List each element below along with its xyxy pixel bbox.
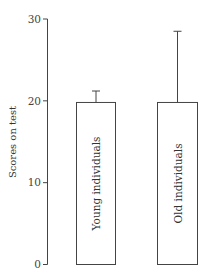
bars: Young individualsOld individuals bbox=[77, 31, 198, 264]
y-ticks: 0102030 bbox=[28, 13, 48, 271]
bar-old-individuals: Old individuals bbox=[158, 31, 198, 264]
y-tick-label: 30 bbox=[28, 13, 41, 25]
y-axis-label: Scores on test bbox=[7, 106, 18, 178]
y-tick-label: 10 bbox=[28, 176, 41, 188]
y-tick-label: 20 bbox=[28, 95, 41, 107]
bar-chart: 0102030 Scores on test Young individuals… bbox=[0, 0, 210, 280]
bar-label: Old individuals bbox=[172, 143, 184, 223]
bar-label: Young individuals bbox=[90, 137, 102, 232]
y-tick-label: 0 bbox=[34, 258, 41, 270]
bar-young-individuals: Young individuals bbox=[77, 91, 116, 264]
